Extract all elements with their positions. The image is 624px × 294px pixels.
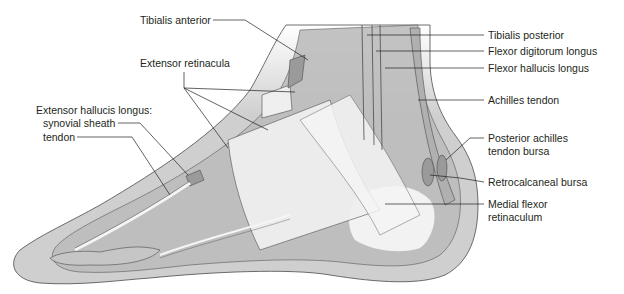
label-ehl-tendon: tendon bbox=[43, 131, 75, 143]
label-medial-flexor-retinaculum-1: Medial flexor bbox=[488, 198, 548, 210]
label-achilles-tendon: Achilles tendon bbox=[488, 94, 559, 106]
label-medial-flexor-retinaculum-2: retinaculum bbox=[488, 211, 542, 223]
label-flexor-hallucis-longus: Flexor hallucis longus bbox=[488, 62, 589, 74]
retrocalcaneal-bursa-shape bbox=[422, 158, 434, 186]
label-posterior-achilles-bursa-2: tendon bursa bbox=[488, 145, 549, 157]
label-tibialis-posterior: Tibialis posterior bbox=[488, 29, 564, 41]
foot-anatomy-diagram: Tibialis anterior Extensor retinacula Ex… bbox=[0, 0, 624, 294]
label-ehl-synovial-sheath: synovial sheath bbox=[43, 117, 115, 129]
label-ehl-heading: Extensor hallucis longus: bbox=[36, 104, 152, 116]
label-retrocalcaneal-bursa: Retrocalcaneal bursa bbox=[488, 176, 587, 188]
label-flexor-digitorum-longus: Flexor digitorum longus bbox=[488, 45, 597, 57]
label-tibialis-anterior: Tibialis anterior bbox=[140, 14, 211, 26]
label-extensor-retinacula: Extensor retinacula bbox=[140, 57, 230, 69]
posterior-achilles-bursa-shape bbox=[437, 155, 447, 181]
label-posterior-achilles-bursa-1: Posterior achilles bbox=[488, 132, 568, 144]
